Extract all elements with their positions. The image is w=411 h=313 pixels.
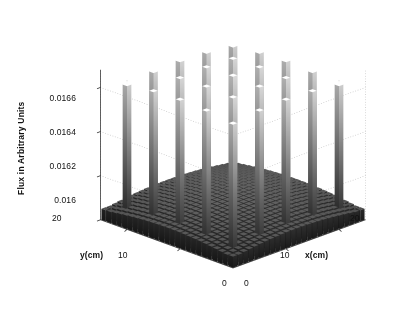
x-axis-title: x(cm) [305,250,328,260]
z-axis-title: Flux in Arbitrary Units [14,96,28,200]
z-tick-label-0.0166: 0.0166 [33,93,76,103]
y-tick-label-20: 20 [52,213,62,223]
y-tick-label-10: 10 [118,250,128,260]
figure-3d-bar-chart: Flux in Arbitrary Units 0.0166 0.0164 0.… [0,0,411,313]
z-tick-label-0.0164: 0.0164 [33,127,76,137]
x-tick-label-10: 10 [280,250,290,260]
x-origin-label: 0 [244,278,249,288]
bar3-plot-canvas [0,0,411,313]
x-tick-label-20: 20 [350,213,360,223]
y-origin-label: 0 [222,278,227,288]
y-axis-title: y(cm) [80,250,103,260]
z-tick-label-0.0162: 0.0162 [33,161,76,171]
z-tick-label-0.016: 0.016 [33,195,76,205]
